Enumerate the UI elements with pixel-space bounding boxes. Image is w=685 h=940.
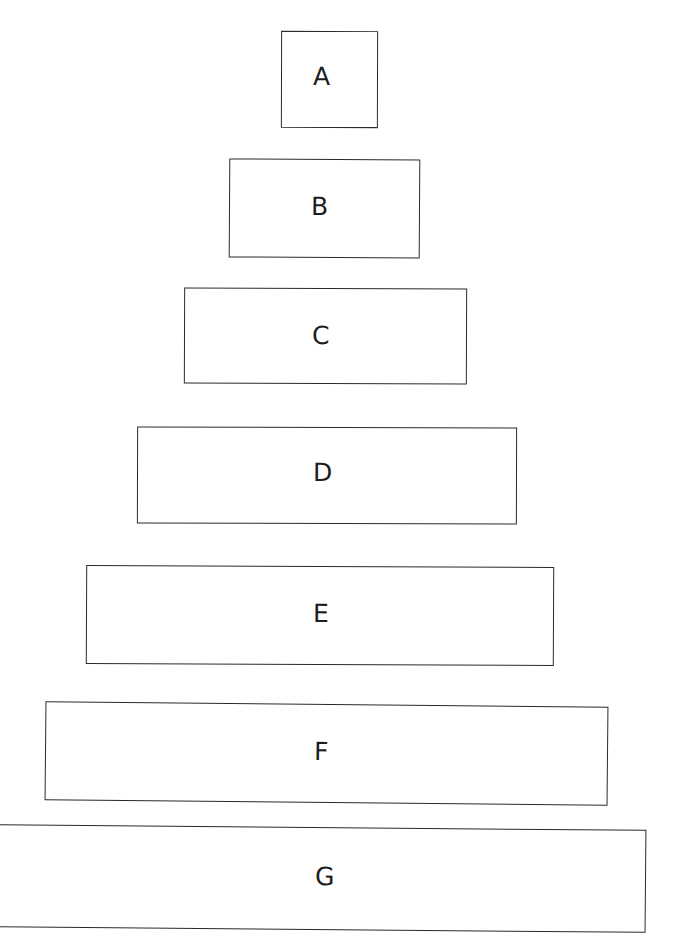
pyramid-level-a-label: A [313, 64, 331, 89]
pyramid-level-c-label: C [312, 323, 330, 348]
pyramid-level-f[interactable]: F [45, 701, 609, 805]
pyramid-level-e-label: E [313, 601, 329, 626]
pyramid-level-d-label: D [313, 460, 333, 485]
pyramid-level-d[interactable]: D [137, 427, 517, 525]
pyramid-level-b-label: B [311, 194, 329, 219]
pyramid-level-a[interactable]: A [281, 31, 378, 128]
pyramid-level-g-label: G [315, 864, 335, 889]
pyramid-level-g[interactable]: G [0, 824, 646, 933]
pyramid-level-f-label: F [314, 739, 329, 764]
pyramid-level-c[interactable]: C [184, 288, 467, 385]
pyramid-level-e[interactable]: E [86, 565, 554, 666]
diagram-canvas: A B C D E F G [0, 0, 685, 940]
pyramid-level-b[interactable]: B [229, 158, 421, 258]
